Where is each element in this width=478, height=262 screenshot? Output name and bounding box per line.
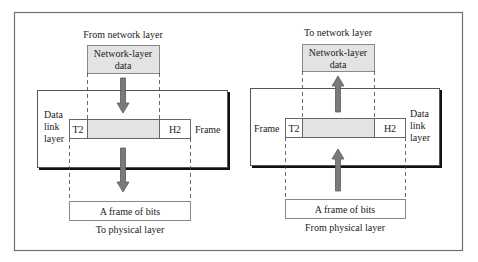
- receiver-frame-label: Frame: [254, 123, 280, 134]
- sender-layer-label-line2: link: [44, 121, 60, 132]
- sender-network-data-line1: Network-layer: [94, 48, 153, 59]
- sender-frame-label: Frame: [195, 124, 221, 135]
- sender-top-label: From network layer: [83, 29, 163, 40]
- sender-trailer: T2: [72, 124, 83, 135]
- receiver-top-label: To network layer: [304, 27, 373, 38]
- receiver-network-data-line1: Network-layer: [309, 47, 368, 58]
- sender-header: H2: [169, 124, 181, 135]
- sender-layer-label-line3: layer: [44, 133, 65, 144]
- receiver-layer-label-line3: layer: [410, 132, 431, 143]
- receiver-network-data-line2: data: [330, 59, 347, 70]
- receiver-bottom-label: From physical layer: [305, 222, 386, 233]
- sender-network-data-line2: data: [115, 60, 132, 71]
- sender-layer-label-line1: Data: [44, 109, 63, 120]
- receiver-frame-payload: [303, 119, 375, 138]
- receiver-layer-label-line2: link: [410, 120, 426, 131]
- receiver-trailer: T2: [288, 123, 299, 134]
- receiver-header: H2: [384, 123, 396, 134]
- receiver-bits-label: A frame of bits: [315, 204, 375, 215]
- sender-bottom-label: To physical layer: [96, 224, 165, 235]
- sender-frame-payload: [88, 120, 160, 139]
- receiver-layer-label-line1: Data: [410, 108, 429, 119]
- data-link-layer-diagram: From network layer Network-layer data T2…: [0, 0, 478, 262]
- sender-bits-label: A frame of bits: [100, 206, 160, 217]
